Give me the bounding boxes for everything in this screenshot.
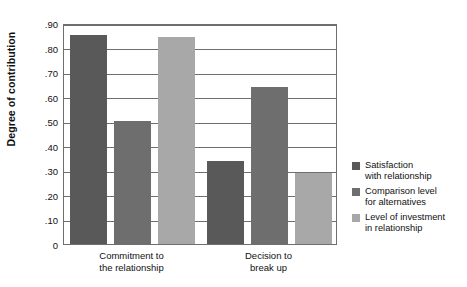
bar: [207, 161, 244, 244]
y-axis-tick-label: .70: [45, 68, 58, 79]
y-axis-tick-label: .40: [45, 141, 58, 152]
legend-label-line: Comparison level: [365, 186, 437, 197]
y-axis-tick-label: .10: [45, 215, 58, 226]
plot-area: [63, 24, 337, 245]
bar: [251, 87, 288, 244]
bar: [114, 121, 151, 244]
legend-label-line: Level of investment: [365, 212, 445, 223]
chart-legend: Satisfactionwith relationshipComparison …: [352, 160, 464, 238]
y-axis-title: Degree of contribution: [5, 0, 17, 199]
y-axis-tick-label: .30: [45, 166, 58, 177]
x-axis-group-label: Commitment tothe relationship: [62, 250, 202, 273]
legend-item: Comparison levelfor alternatives: [352, 186, 464, 208]
legend-label: Satisfactionwith relationship: [365, 160, 432, 182]
x-axis-group-label-line: Decision to: [199, 250, 339, 262]
legend-label: Level of investmentin relationship: [365, 212, 445, 234]
legend-label-line: with relationship: [365, 171, 432, 182]
gridline: [64, 25, 336, 26]
legend-item: Level of investmentin relationship: [352, 212, 464, 234]
y-axis-tick-label: .80: [45, 43, 58, 54]
legend-swatch: [352, 188, 360, 196]
legend-label: Comparison levelfor alternatives: [365, 186, 437, 208]
bar: [158, 37, 195, 244]
x-axis-group-label: Decision tobreak up: [199, 250, 339, 273]
bar-chart-figure: Degree of contribution .90.80.70.60.50.4…: [0, 0, 467, 287]
legend-swatch: [352, 214, 360, 222]
legend-label-line: Satisfaction: [365, 160, 432, 171]
x-axis-group-label-line: the relationship: [62, 262, 202, 274]
y-axis-tick-label: .50: [45, 117, 58, 128]
legend-swatch: [352, 162, 360, 170]
y-axis-tick-label: .90: [45, 19, 58, 30]
y-axis-tick-label: .20: [45, 190, 58, 201]
y-axis-tick-label: .60: [45, 92, 58, 103]
legend-label-line: in relationship: [365, 223, 445, 234]
legend-item: Satisfactionwith relationship: [352, 160, 464, 182]
bar: [70, 35, 107, 244]
bar: [295, 173, 332, 244]
x-axis-group-label-line: break up: [199, 262, 339, 274]
legend-label-line: for alternatives: [365, 197, 437, 208]
x-axis-group-label-line: Commitment to: [62, 250, 202, 262]
y-axis-tick-label: 0: [53, 240, 58, 251]
